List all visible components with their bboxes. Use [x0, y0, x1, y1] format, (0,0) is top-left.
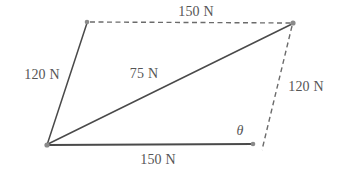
label-top-force: 150 N [178, 5, 214, 19]
vertex-dot-top-right [290, 20, 295, 25]
edge-left-solid [47, 23, 87, 145]
label-angle-theta: θ [236, 124, 243, 138]
force-diagram-figure: 150 N 120 N 75 N 120 N 150 N θ [0, 0, 337, 175]
label-right-force: 120 N [288, 80, 324, 94]
vertex-dot-top-left [85, 20, 90, 25]
vertex-dot-bottom-right [251, 142, 256, 147]
edge-diagonal-solid [48, 24, 292, 144]
figure-canvas [0, 0, 337, 175]
edge-top-dashed [90, 22, 292, 23]
label-left-force: 120 N [24, 68, 60, 82]
edge-bottom-solid [48, 144, 253, 145]
vertex-dot-bottom-left [44, 142, 49, 147]
label-bottom-force: 150 N [140, 153, 176, 167]
label-diagonal-force: 75 N [130, 67, 158, 81]
